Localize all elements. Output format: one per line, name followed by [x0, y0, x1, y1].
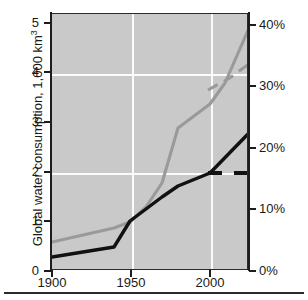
- y-ticklabel-right-30: 30%: [259, 79, 305, 92]
- chart-figure: 5 4 3 2 1 0 40% 30% 20% 10% 0% 1900 1950…: [0, 0, 308, 300]
- y-tick-left-0: [44, 270, 51, 272]
- y-ticklabel-right-20: 20%: [259, 141, 305, 154]
- x-ticklabel-1950: 1950: [101, 276, 161, 289]
- y-ticklabel-right-10: 10%: [259, 202, 305, 215]
- y-axis-title-left: Global water consumption, 1,000 km3: [27, 18, 45, 258]
- series-line-withdrawal: [52, 28, 248, 242]
- y-tick-right-30: [249, 85, 256, 87]
- x-ticklabel-1900: 1900: [22, 276, 82, 289]
- y-tick-right-10: [249, 208, 256, 210]
- y-axis-line-right: [248, 12, 250, 271]
- y-ticklabel-right-0: 0%: [259, 264, 305, 277]
- footer-divider: [4, 292, 304, 294]
- series-overlay: [52, 14, 248, 270]
- plot-area: [51, 13, 248, 270]
- y-axis-line-left: [50, 12, 52, 271]
- y-tick-right-40: [249, 24, 256, 26]
- y-tick-right-0: [249, 270, 256, 272]
- y-tick-right-20: [249, 147, 256, 149]
- y-axis-title-left-text: Global water consumption, 1,000 km: [30, 35, 45, 246]
- y-axis-title-left-superscript: 3: [29, 30, 39, 35]
- x-ticklabel-2000: 2000: [180, 276, 240, 289]
- series-line-consumption: [52, 133, 248, 257]
- y-ticklabel-right-40: 40%: [259, 18, 305, 31]
